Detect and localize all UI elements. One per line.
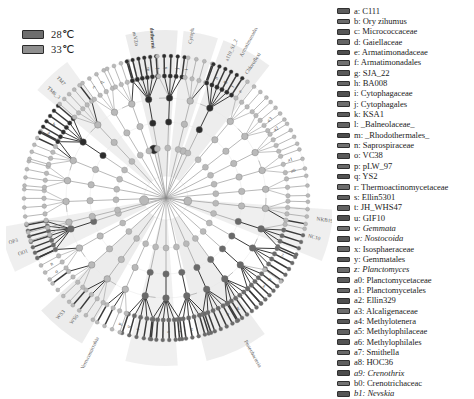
leaf-node	[256, 275, 261, 280]
leaf-node	[33, 251, 37, 255]
taxon-legend-label: b1: Nevskia	[354, 389, 394, 398]
clade-node	[262, 205, 269, 212]
taxon-legend-item: i: Cytophagaceae	[337, 89, 473, 99]
clade-node	[208, 172, 214, 178]
leaf-node	[42, 204, 47, 209]
leaf-node	[219, 327, 223, 331]
ring-tick-label: z	[281, 251, 286, 258]
leaf-node	[42, 196, 47, 201]
branch-line	[132, 104, 140, 127]
leaf-stick	[283, 159, 302, 165]
ring-tick-label: s	[166, 331, 172, 333]
leaf-node	[211, 62, 215, 66]
taxon-legend-item: a4: Methylotenera	[337, 316, 473, 326]
clade-node	[165, 145, 171, 151]
clade-node	[142, 293, 149, 300]
clade-node	[124, 130, 130, 136]
leaf-node	[285, 212, 290, 217]
clade-node	[66, 219, 73, 226]
taxon-legend-item: x: Isosphaeraceae	[337, 244, 473, 254]
branch-line	[132, 80, 134, 104]
clade-node	[203, 286, 210, 293]
clade-node	[134, 235, 140, 241]
branch-line	[234, 153, 255, 164]
taxon-legend-label: p: pLW_97	[354, 162, 392, 171]
leaf-stick	[276, 137, 294, 146]
clade-node	[221, 276, 228, 283]
cladogram-svg: mlkjihgfedcbanopqrstuvwxyza0a1a2a3 nsVZn…	[6, 28, 332, 368]
leaf-node	[151, 317, 156, 322]
clade-node	[122, 167, 128, 173]
leaf-node	[64, 266, 69, 271]
leaf-node	[48, 277, 52, 281]
leaf-node	[278, 154, 283, 159]
leaf-node	[245, 313, 249, 317]
taxon-legend-item: b1: Nevskia	[337, 389, 473, 399]
leaf-node	[56, 254, 61, 259]
taxon-legend-label: a6: Methylophilales	[354, 338, 422, 347]
branch-line	[83, 142, 103, 155]
clade-node	[173, 244, 179, 250]
ring-tick-label: u	[189, 328, 195, 332]
clade-node	[111, 139, 117, 145]
branch-line	[91, 185, 117, 190]
taxon-legend-label: o: VC38	[354, 151, 383, 160]
leaf-node	[259, 302, 263, 306]
branch-line	[66, 248, 79, 268]
leaf-stick	[288, 186, 308, 188]
leaf-node	[39, 263, 43, 267]
leaf-node	[233, 296, 238, 301]
leaf-node	[161, 338, 165, 342]
taxon-legend-label: h: BA008	[354, 79, 387, 88]
taxon-color-swatch	[337, 339, 350, 345]
clade-node	[242, 133, 249, 140]
leaf-node	[43, 212, 48, 217]
leaf-node	[286, 194, 291, 199]
clade-node	[184, 197, 192, 205]
clade-node	[97, 233, 103, 239]
taxon-legend-item: n: Saprospiraceae	[337, 140, 473, 150]
leaf-node	[215, 85, 220, 90]
branch-line	[48, 166, 67, 180]
taxon-color-swatch	[337, 329, 350, 335]
leaf-stick	[112, 311, 120, 329]
clade-node	[145, 96, 152, 103]
taxon-color-swatch	[337, 19, 350, 25]
taxon-legend-label: y: Gemmatales	[354, 255, 405, 264]
branch-line	[226, 136, 245, 151]
leaf-node	[51, 243, 56, 248]
leaf-stick	[286, 176, 306, 179]
taxon-legend-item: a9: Crenothrix	[337, 368, 473, 378]
leaf-node	[192, 314, 197, 319]
taxon-color-swatch	[337, 391, 350, 397]
ring-tick-label: n	[49, 260, 55, 267]
leaf-node	[22, 187, 26, 191]
taxon-legend-item: b0: Crenotrichaceac	[337, 378, 473, 388]
leaf-node	[162, 54, 166, 58]
leaf-stick	[104, 308, 113, 326]
leaf-node	[119, 82, 124, 87]
leaf-node	[252, 85, 256, 89]
leaf-node	[35, 136, 39, 140]
leaf-stick	[50, 268, 66, 279]
clade-node	[68, 226, 75, 233]
ring-tick-label: a2	[272, 124, 280, 132]
clade-node	[76, 245, 83, 252]
taxon-color-swatch	[337, 112, 350, 118]
leaf-node	[268, 132, 273, 137]
leaf-stick	[25, 186, 45, 188]
leaf-node	[81, 81, 85, 85]
leaf-node	[29, 239, 33, 243]
leaf-node	[258, 118, 263, 123]
leaf-node	[282, 118, 286, 122]
leaf-node	[274, 106, 278, 110]
leaf-node	[85, 103, 90, 108]
ring-tick-label: c	[92, 84, 99, 90]
taxon-legend-label: i: Cytophagaceae	[354, 89, 413, 98]
clade-node	[163, 271, 169, 277]
clade-node	[143, 241, 149, 247]
leaf-node	[276, 149, 281, 154]
leaf-node	[287, 267, 291, 271]
leaf-node	[197, 313, 202, 318]
leaf-stick	[180, 319, 182, 339]
